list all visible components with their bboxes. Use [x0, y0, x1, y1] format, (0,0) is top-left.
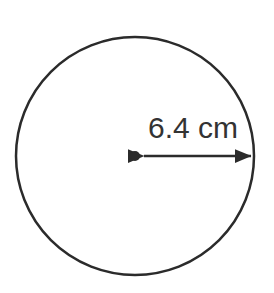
circle-center-dot	[130, 151, 140, 161]
radius-measurement-label: 6.4 cm	[148, 111, 238, 144]
geometry-figure-canvas: 6.4 cm	[0, 0, 274, 293]
circle-diagram-svg: 6.4 cm	[0, 0, 274, 293]
